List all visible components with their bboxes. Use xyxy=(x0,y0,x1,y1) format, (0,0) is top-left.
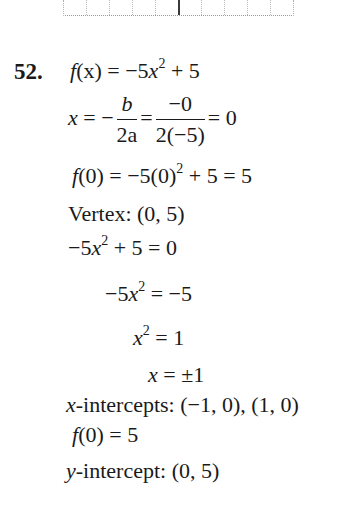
exponent: 2 xyxy=(143,323,150,338)
vertex-line: Vertex: (0, 5) xyxy=(68,203,185,225)
x-intercepts-line: x-intercepts: (−1, 0), (1, 0) xyxy=(66,394,299,416)
numerator: −0 xyxy=(169,91,192,116)
denominator: 2(−5) xyxy=(156,122,205,147)
grid-line xyxy=(132,0,133,15)
numerator: b xyxy=(121,91,132,116)
isolate-line: −5x2 = −5 xyxy=(105,283,192,305)
variable: x xyxy=(66,392,76,417)
grid-line xyxy=(270,0,271,15)
grid-line xyxy=(155,0,156,15)
text: = 1 xyxy=(150,325,184,350)
grid-line xyxy=(109,0,110,15)
f-of-zero-line: f(0) = −5(0)2 + 5 = 5 xyxy=(72,165,252,187)
variable: x xyxy=(133,325,143,350)
text: + 5 = 5 xyxy=(183,163,252,188)
text: (0) = −5(0) xyxy=(78,163,176,188)
fraction-b-over-2a: b2a xyxy=(117,92,138,147)
grid-line xyxy=(247,0,248,15)
variable: x xyxy=(128,281,138,306)
y-intercept-line: y-intercept: (0, 5) xyxy=(66,460,219,482)
fraction-values: −02(−5) xyxy=(156,92,205,147)
set-equal-zero-line: −5x2 + 5 = 0 xyxy=(68,237,177,259)
exponent: 2 xyxy=(176,161,183,176)
text: + 5 xyxy=(165,58,199,83)
vertex-x-formula: x = −b2a=−02(−5)= 0 xyxy=(68,92,237,147)
variable: x xyxy=(149,58,159,83)
problem-number: 52. xyxy=(14,59,43,85)
denominator: 2a xyxy=(117,122,138,147)
variable: y xyxy=(66,458,76,483)
text: -intercepts: (−1, 0), (1, 0) xyxy=(76,392,299,417)
text: −5 xyxy=(68,235,91,260)
grid-line xyxy=(201,0,202,15)
function-arg: (x) xyxy=(76,58,102,83)
text: = ±1 xyxy=(158,362,204,387)
function-definition: f(x) = −5x2 + 5 xyxy=(70,60,200,82)
variable: x xyxy=(148,362,158,387)
text: = 0 xyxy=(208,105,237,130)
exponent: 2 xyxy=(138,279,145,294)
exponent: 2 xyxy=(158,56,165,71)
text: + 5 = 0 xyxy=(108,235,177,260)
exponent: 2 xyxy=(101,233,108,248)
f0-equals-5-line: f(0) = 5 xyxy=(72,424,138,446)
text: = − xyxy=(78,105,114,130)
text: = xyxy=(140,105,152,130)
text: −5 xyxy=(105,281,128,306)
grid-line xyxy=(86,0,87,15)
text: -intercept: (0, 5) xyxy=(76,458,220,483)
y-axis-line xyxy=(178,0,180,15)
text: (0) = 5 xyxy=(78,422,138,447)
grid-line xyxy=(224,0,225,15)
text: = −5 xyxy=(145,281,192,306)
variable: x xyxy=(91,235,101,260)
text: = −5 xyxy=(102,58,149,83)
x-solution-line: x = ±1 xyxy=(148,364,204,386)
x-squared-line: x2 = 1 xyxy=(133,327,184,349)
variable: x xyxy=(68,105,78,130)
